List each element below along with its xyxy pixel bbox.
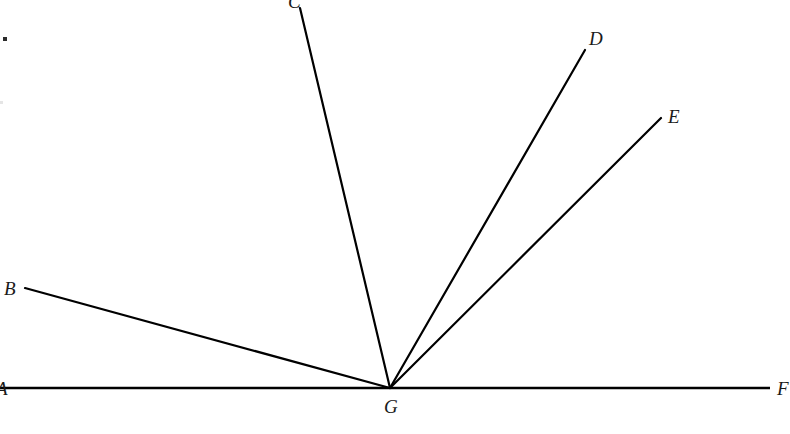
point-label-B: B: [4, 279, 16, 298]
ray-GC: [300, 8, 390, 388]
geometry-svg: [0, 0, 790, 434]
geometry-diagram-canvas: A B C D E F G: [0, 0, 790, 434]
point-label-F: F: [777, 379, 789, 398]
point-label-G: G: [384, 397, 398, 416]
point-label-A: A: [0, 379, 8, 398]
point-label-C: C: [288, 0, 301, 11]
ray-GE: [390, 118, 661, 388]
ray-GD: [390, 50, 585, 388]
point-label-D: D: [589, 29, 603, 48]
point-label-E: E: [668, 107, 680, 126]
faint-speck-artifact: [0, 101, 3, 104]
ray-GB: [25, 288, 390, 388]
speck-artifact: [3, 37, 7, 41]
